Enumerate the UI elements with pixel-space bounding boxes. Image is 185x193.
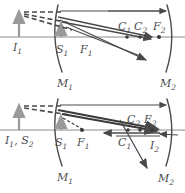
label-s1: S1 <box>55 136 67 151</box>
label-i2: I2 <box>149 139 159 154</box>
point-f2 <box>157 35 161 39</box>
point-c2 <box>138 128 142 132</box>
dashed-ray-s1-f1 <box>63 118 82 129</box>
point-c2 <box>138 35 142 39</box>
point-c1 <box>126 128 130 132</box>
label-c2: C2 <box>134 20 147 35</box>
point-f1 <box>80 128 84 132</box>
label-m1: M1 <box>56 77 73 92</box>
ray-diverge-down-2 <box>66 27 143 57</box>
ray-beam-main-1 <box>58 110 158 129</box>
ray-return-left-3 <box>160 134 178 135</box>
panel-top-canvas: I1 S1 F1 C1 C2 F2 M1 M2 <box>0 0 185 96</box>
label-i1-s2: I1, S2 <box>4 134 34 149</box>
diagram-panel-bottom: I1, S2 S1 F1 C1 C2 F2 I2 M1 <box>0 96 185 192</box>
label-c1: C1 <box>118 20 131 35</box>
mirror-m2-arc <box>166 99 172 166</box>
label-c2: C2 <box>127 113 140 128</box>
label-c1: C1 <box>118 136 131 151</box>
label-m2: M2 <box>159 77 176 92</box>
label-i1: I1 <box>12 41 22 56</box>
label-f1: F1 <box>79 43 92 58</box>
label-f1: F1 <box>76 136 89 151</box>
mirror-m1-arc <box>55 5 62 72</box>
label-s1: S1 <box>56 43 68 58</box>
panel-bottom-canvas: I1, S2 S1 F1 C1 C2 F2 I2 M1 <box>0 96 185 193</box>
point-c1 <box>125 35 129 39</box>
ray-diagram-figure: I1 S1 F1 C1 C2 F2 M1 M2 <box>0 0 185 193</box>
ray-beam-main-2 <box>62 114 157 131</box>
mirror-m2-arc <box>166 5 172 72</box>
label-f2: F2 <box>152 20 166 35</box>
diagram-panel-top: I1 S1 F1 C1 C2 F2 M1 M2 <box>0 0 185 96</box>
label-m2: M2 <box>157 172 174 187</box>
label-f2: F2 <box>143 113 157 128</box>
label-m1: M1 <box>56 171 73 186</box>
point-f2 <box>150 128 154 132</box>
